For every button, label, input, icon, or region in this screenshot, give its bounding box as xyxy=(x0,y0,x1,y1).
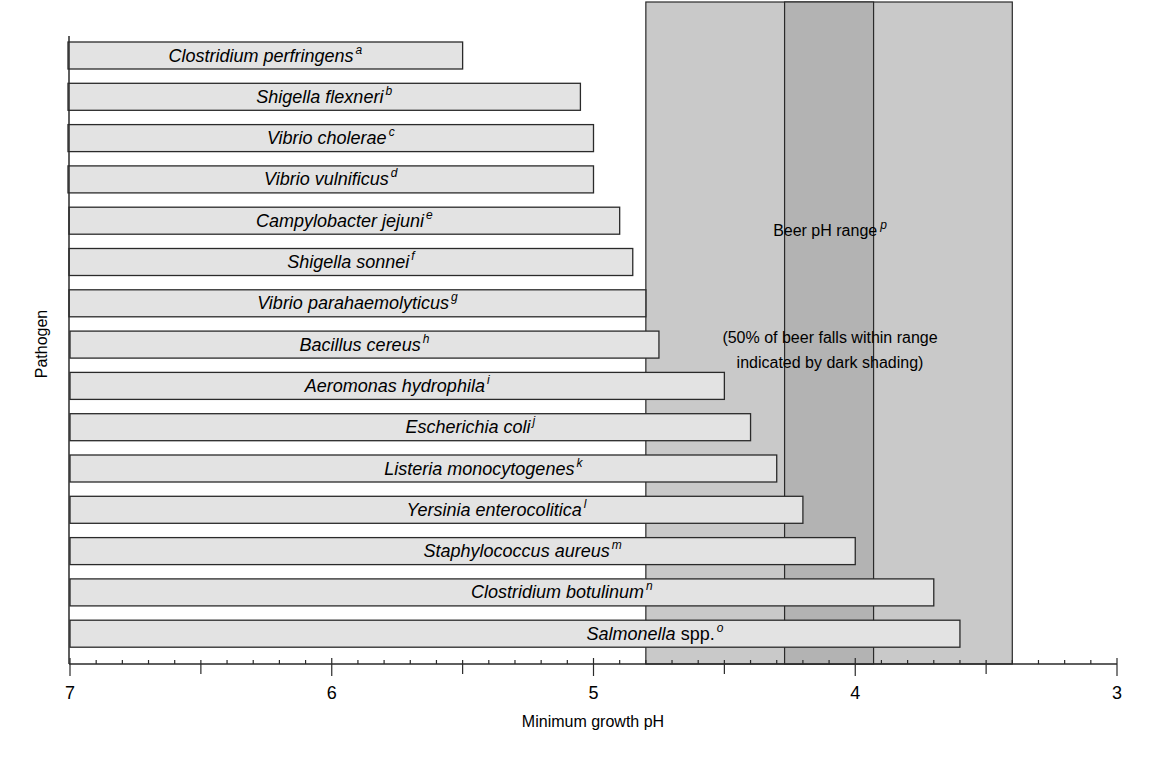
bar: Salmonella spp.o xyxy=(70,620,960,647)
x-tick-label: 3 xyxy=(1112,683,1122,703)
x-tick-label: 6 xyxy=(327,683,337,703)
beer-ph-range-label: Beer pH rangep xyxy=(773,218,887,239)
x-tick-label: 7 xyxy=(65,683,75,703)
bar-label: Shigella flexnerib xyxy=(256,84,392,107)
bar: Listeria monocytogenesk xyxy=(70,455,777,482)
chart: Clostridium perfringensaShigella flexner… xyxy=(0,0,1153,767)
bar-label: Shigella sonneif xyxy=(287,249,416,272)
bar: Yersinia enterocolitical xyxy=(70,496,803,523)
bar: Clostridium botulinumn xyxy=(70,579,934,606)
beer-range-note-line2: indicated by dark shading) xyxy=(737,354,924,371)
bar-label: Vibrio parahaemolyticusg xyxy=(257,290,458,313)
bar-label: Vibrio choleraec xyxy=(267,125,395,148)
bar: Shigella flexnerib xyxy=(68,83,580,110)
bar-label: Clostridium perfringensa xyxy=(168,43,362,66)
bar-label: Vibrio vulnificusd xyxy=(264,166,398,189)
x-axis-title: Minimum growth pH xyxy=(522,713,664,730)
x-tick-label: 4 xyxy=(850,683,860,703)
bar: Shigella sonneif xyxy=(69,249,633,276)
bar: Vibrio vulnificusd xyxy=(68,166,594,193)
y-axis-title: Pathogen xyxy=(33,310,50,379)
bar-label: Escherichia colij xyxy=(405,414,535,437)
bar: Escherichia colij xyxy=(70,414,751,441)
bar-label: Aeromonas hydrophilai xyxy=(304,373,490,396)
bar-label: Staphylococcus aureusm xyxy=(424,538,622,561)
bar: Bacillus cereush xyxy=(70,331,659,358)
bar: Clostridium perfringensa xyxy=(68,42,463,69)
bar: Vibrio parahaemolyticusg xyxy=(69,290,646,317)
beer-range-note-line1: (50% of beer falls within range xyxy=(722,329,937,346)
bar-label: Listeria monocytogenesk xyxy=(384,456,583,479)
bar-rect xyxy=(70,620,960,647)
bar: Staphylococcus aureusm xyxy=(70,538,855,565)
bar-label: Yersinia enterocolitical xyxy=(407,497,587,520)
bar: Campylobacter jejunie xyxy=(69,207,620,234)
bar-label: Bacillus cereush xyxy=(300,332,430,355)
bar-label: Clostridium botulinumn xyxy=(471,579,653,602)
bar-label: Salmonella spp.o xyxy=(587,621,724,644)
bar-label: Campylobacter jejunie xyxy=(256,208,433,231)
bar: Vibrio choleraec xyxy=(68,125,594,152)
x-tick-label: 5 xyxy=(588,683,598,703)
bar: Aeromonas hydrophilai xyxy=(70,372,724,399)
